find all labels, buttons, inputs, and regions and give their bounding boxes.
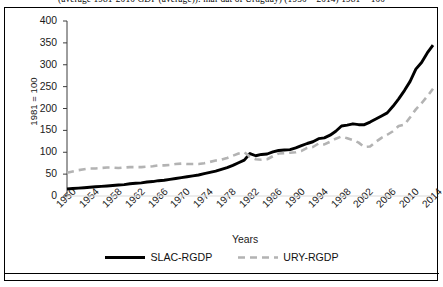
legend-entry[interactable]: URY-RGDP (238, 251, 338, 263)
dashed-line-icon (238, 253, 278, 262)
legend-entry[interactable]: SLAC-RGDP (105, 251, 212, 263)
series-line-slac-rgdp (67, 45, 433, 189)
legend-divider (5, 273, 439, 274)
chart-legend: SLAC-RGDPURY-RGDP (5, 244, 439, 270)
series-line-ury-rgdp (67, 89, 433, 173)
chart-frame: 1981 = 100 400350300250200150100500 1950… (4, 7, 438, 281)
axes-group (63, 21, 433, 200)
legend-label: URY-RGDP (283, 251, 338, 263)
figure-caption: (average 1981-2010 GDP (average)): mar d… (0, 0, 443, 5)
solid-line-icon (105, 253, 145, 262)
series-group (67, 45, 433, 189)
plot-area-wrapper: 1981 = 100 400350300250200150100500 1950… (5, 8, 439, 282)
legend-label: SLAC-RGDP (150, 251, 212, 263)
plot-canvas (5, 8, 439, 282)
figure-container: (average 1981-2010 GDP (average)): mar d… (0, 0, 443, 287)
